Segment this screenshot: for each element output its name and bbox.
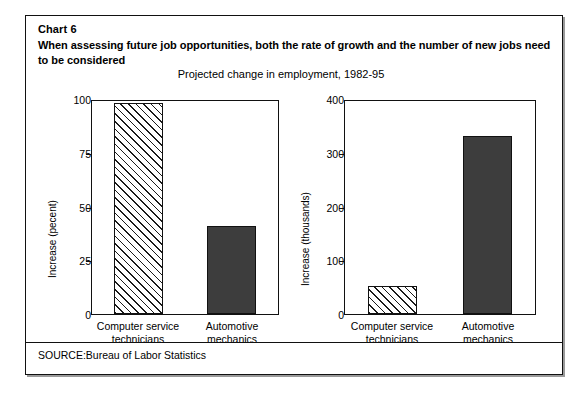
y-tick-label: 0 [57, 309, 91, 321]
source-note: SOURCE:Bureau of Labor Statistics [38, 349, 206, 361]
chart-headline: When assessing future job opportunities,… [38, 38, 554, 68]
bar [207, 226, 255, 314]
bar-group-right [345, 101, 535, 314]
plot-area-left [91, 100, 279, 315]
source-divider [26, 342, 562, 343]
bar [368, 286, 417, 314]
y-axis-ticks-right: 0100200300400 [294, 100, 344, 315]
y-tick-label: 0 [310, 309, 344, 321]
bar-group-left [92, 101, 278, 314]
plot-area-right [344, 100, 536, 315]
x-axis-labels-right: Computer service techniciansAutomotive m… [344, 320, 536, 354]
chart-subtitle: Projected change in employment, 1982-95 [26, 68, 536, 80]
bar [463, 136, 512, 314]
chart-panel-right: Increase (thousands) 0100200300400 Compu… [294, 88, 552, 358]
chart-panel-left: Increase (pecent) 0255075100 Computer se… [36, 88, 291, 358]
bar [114, 103, 162, 314]
chart-figure: Chart 6 When assessing future job opport… [25, 15, 563, 375]
y-tick-label: 400 [310, 94, 344, 106]
y-tick-label: 100 [57, 94, 91, 106]
chart-number: Chart 6 [38, 23, 77, 35]
y-axis-ticks-left: 0255075100 [36, 100, 91, 315]
